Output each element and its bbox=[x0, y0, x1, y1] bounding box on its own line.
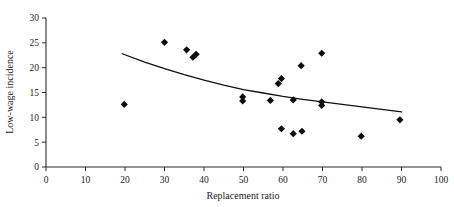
y-axis-tick-labels: 051015202530 bbox=[30, 13, 40, 172]
y-tick-label: 25 bbox=[30, 38, 40, 48]
y-axis-title: Low-wage incidence bbox=[4, 50, 15, 134]
data-point-marker bbox=[318, 50, 325, 57]
y-tick-label: 0 bbox=[34, 162, 39, 172]
y-axis-ticks bbox=[42, 18, 46, 167]
trend-line-group bbox=[122, 54, 401, 112]
x-tick-label: 50 bbox=[239, 175, 249, 185]
data-point-marker bbox=[161, 39, 168, 46]
x-axis-tick-labels: 0102030405060708090100 bbox=[44, 175, 449, 185]
x-tick-label: 90 bbox=[397, 175, 407, 185]
data-point-marker bbox=[183, 46, 190, 53]
x-tick-label: 80 bbox=[357, 175, 367, 185]
y-tick-label: 10 bbox=[30, 113, 40, 123]
data-point-marker bbox=[267, 97, 274, 104]
y-tick-label: 20 bbox=[30, 63, 40, 73]
scatter-chart-figure: 0102030405060708090100 051015202530 Repl… bbox=[0, 0, 454, 207]
x-tick-label: 100 bbox=[434, 175, 449, 185]
x-tick-label: 10 bbox=[81, 175, 91, 185]
x-tick-label: 40 bbox=[199, 175, 209, 185]
data-point-marker bbox=[298, 62, 305, 69]
x-tick-label: 0 bbox=[44, 175, 49, 185]
x-tick-label: 70 bbox=[318, 175, 328, 185]
data-point-marker bbox=[239, 97, 246, 104]
x-tick-label: 30 bbox=[160, 175, 170, 185]
data-point-marker bbox=[396, 116, 403, 123]
x-tick-label: 20 bbox=[120, 175, 130, 185]
y-tick-label: 30 bbox=[30, 13, 40, 23]
data-points-group bbox=[121, 39, 404, 140]
data-point-marker bbox=[278, 125, 285, 132]
x-axis-title: Replacement ratio bbox=[206, 190, 279, 201]
fitted-trend-line bbox=[122, 54, 401, 112]
axis-lines bbox=[46, 18, 441, 167]
x-axis-ticks bbox=[46, 167, 441, 171]
chart-plot-area: 0102030405060708090100 051015202530 Repl… bbox=[0, 0, 454, 207]
data-point-marker bbox=[358, 133, 365, 140]
data-point-marker bbox=[298, 128, 305, 135]
x-tick-label: 60 bbox=[278, 175, 288, 185]
y-tick-label: 5 bbox=[34, 138, 39, 148]
data-point-marker bbox=[290, 130, 297, 137]
data-point-marker bbox=[121, 101, 128, 108]
y-tick-label: 15 bbox=[30, 88, 40, 98]
